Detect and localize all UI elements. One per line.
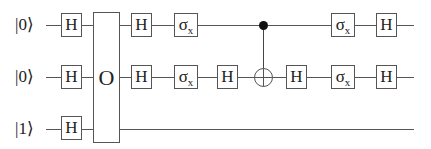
pauli-x-gate-q2-1: σx bbox=[174, 65, 198, 89]
hadamard-gate-q3-1: H bbox=[61, 116, 82, 140]
hadamard-gate-q2-2: H bbox=[131, 65, 152, 89]
hadamard-gate-q1-1: H bbox=[61, 13, 82, 37]
hadamard-gate-q1-2: H bbox=[131, 13, 152, 37]
input-state-qubit-1: |0⟩ bbox=[15, 15, 34, 35]
oracle-gate: O bbox=[93, 12, 120, 143]
sigma-symbol: σ bbox=[179, 67, 188, 87]
sigma-subscript: x bbox=[188, 24, 194, 36]
hadamard-gate-q1-3: H bbox=[376, 13, 397, 37]
hadamard-gate-q2-1: H bbox=[61, 65, 82, 89]
sigma-subscript: x bbox=[188, 76, 194, 88]
sigma-symbol: σ bbox=[336, 67, 345, 87]
input-state-qubit-2: |0⟩ bbox=[15, 67, 34, 87]
hadamard-gate-q2-3: H bbox=[217, 65, 238, 89]
pauli-x-gate-q1-2: σx bbox=[331, 13, 355, 37]
hadamard-gate-q2-4: H bbox=[286, 65, 307, 89]
input-state-qubit-3: |1⟩ bbox=[15, 119, 34, 139]
sigma-symbol: σ bbox=[179, 15, 188, 35]
sigma-symbol: σ bbox=[336, 15, 345, 35]
pauli-x-gate-q2-2: σx bbox=[331, 65, 355, 89]
cnot-target-icon bbox=[254, 68, 274, 88]
sigma-subscript: x bbox=[345, 24, 351, 36]
pauli-x-gate-q1-1: σx bbox=[174, 13, 198, 37]
cnot-control-dot bbox=[259, 21, 268, 30]
hadamard-gate-q2-5: H bbox=[376, 65, 397, 89]
sigma-subscript: x bbox=[345, 76, 351, 88]
